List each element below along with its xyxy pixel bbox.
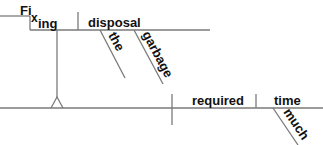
modifier-the: the <box>105 29 127 53</box>
modifier-garbage: garbage <box>139 28 176 80</box>
gerund-suffix: ing <box>38 16 58 31</box>
direct-object-time: time <box>274 93 301 108</box>
pedestal-triangle <box>51 97 63 108</box>
gerund-mid: x <box>31 11 38 25</box>
modifier-much: much <box>281 105 313 142</box>
gerund-step-line <box>0 16 30 30</box>
sentence-diagram: Fi x ing disposal the garbage required t… <box>0 0 323 145</box>
verb-required: required <box>192 93 244 108</box>
gerund-stem: Fi <box>20 3 32 18</box>
gerund-object: disposal <box>88 15 141 30</box>
